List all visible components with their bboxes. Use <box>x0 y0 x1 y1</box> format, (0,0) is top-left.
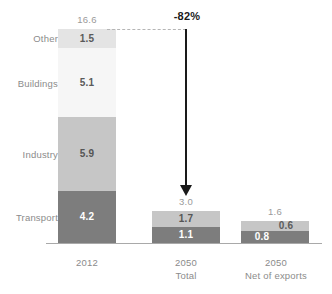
annotation-arrow-head-icon <box>180 185 192 196</box>
category-label-industry: Industry <box>0 149 58 160</box>
bar-segment-2012-industry: 5.9 <box>58 117 116 191</box>
xtick-2050-total-line2: Total <box>152 269 220 282</box>
bar-segment-2012-other: 1.5 <box>58 29 116 48</box>
xtick-2050-net-line1: 2050 <box>265 257 287 268</box>
bar-value-2012-transport: 4.2 <box>58 211 116 222</box>
bar-segment-2012-transport: 4.2 <box>58 191 116 243</box>
bar-value-2012-buildings: 5.1 <box>58 77 116 88</box>
annotation-dashed-connector <box>107 29 186 30</box>
bar-value-2050net-transport: 0.8 <box>241 231 283 242</box>
xtick-2050-total-line1: 2050 <box>175 257 197 268</box>
stacked-bar-chart: Other Buildings Industry Transport 16.6 … <box>0 0 332 294</box>
xtick-2050-total: 2050 Total <box>152 256 220 282</box>
bar-value-2050net-industry: 0.6 <box>263 220 309 231</box>
category-label-transport: Transport <box>0 212 58 223</box>
bar-segment-2012-buildings: 5.1 <box>58 48 116 117</box>
bar-total-2050-net: 1.6 <box>246 206 304 217</box>
category-label-other: Other <box>0 33 58 44</box>
bar-segment-2050net-industry: 0.6 <box>241 221 309 231</box>
category-label-buildings: Buildings <box>0 78 58 89</box>
bar-segment-2050total-industry: 1.7 <box>152 211 220 227</box>
xtick-2012: 2012 <box>58 256 116 269</box>
bar-segment-2050net-transport: 0.8 <box>241 231 309 243</box>
annotation-percent-change: -82% <box>158 10 216 22</box>
bar-total-2050-total: 3.0 <box>157 196 215 207</box>
bar-segment-2050total-transport: 1.1 <box>152 227 220 243</box>
bar-value-2050total-transport: 1.1 <box>152 229 220 240</box>
bar-value-2050total-industry: 1.7 <box>152 213 220 224</box>
bar-value-2012-other: 1.5 <box>58 33 116 44</box>
bar-value-2012-industry: 5.9 <box>58 148 116 159</box>
axis-baseline <box>46 243 322 244</box>
bar-total-2012: 16.6 <box>58 14 116 25</box>
annotation-arrow-shaft <box>185 29 187 187</box>
xtick-2012-line1: 2012 <box>76 257 98 268</box>
xtick-2050-net-of-exports: 2050 Net of exports <box>236 256 316 282</box>
xtick-2050-net-line2: Net of exports <box>236 269 316 282</box>
